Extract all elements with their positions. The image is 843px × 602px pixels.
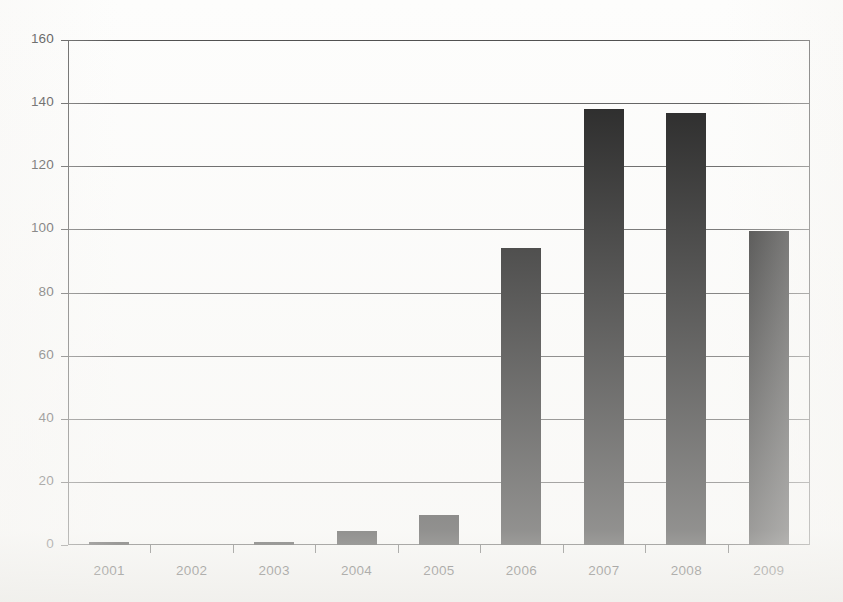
y-tick-label-120: 120 (6, 157, 54, 172)
x-tick-label-2002: 2002 (150, 563, 232, 578)
y-tick-mark-160 (61, 40, 68, 41)
y-tick-label-100: 100 (6, 220, 54, 235)
y-tick-label-160: 160 (6, 31, 54, 46)
y-tick-label-20: 20 (6, 473, 54, 488)
y-tick-mark-140 (61, 103, 68, 104)
x-tick-mark-6 (563, 545, 564, 553)
x-tick-label-2007: 2007 (563, 563, 645, 578)
y-tick-mark-40 (61, 419, 68, 420)
x-tick-label-2006: 2006 (480, 563, 562, 578)
x-tick-label-2003: 2003 (233, 563, 315, 578)
x-tick-label-2009: 2009 (728, 563, 810, 578)
y-tick-mark-20 (61, 482, 68, 483)
bar-2008 (666, 113, 706, 545)
bar-2006 (501, 248, 541, 545)
y-tick-label-60: 60 (6, 347, 54, 362)
x-tick-mark-5 (480, 545, 481, 553)
x-tick-mark-2 (233, 545, 234, 553)
y-tick-mark-120 (61, 166, 68, 167)
x-tick-mark-4 (398, 545, 399, 553)
x-tick-label-2004: 2004 (315, 563, 397, 578)
bar-2003 (254, 542, 294, 545)
chart-canvas: 020406080100120140160 200120022003200420… (0, 0, 843, 602)
y-tick-label-0: 0 (6, 536, 54, 551)
y-tick-mark-80 (61, 293, 68, 294)
y-tick-mark-60 (61, 356, 68, 357)
x-tick-mark-8 (728, 545, 729, 553)
bar-2009 (749, 231, 789, 545)
bar-2005 (419, 515, 459, 545)
x-tick-label-2001: 2001 (68, 563, 150, 578)
bar-2007 (584, 109, 624, 545)
x-tick-mark-3 (315, 545, 316, 553)
y-tick-label-80: 80 (6, 284, 54, 299)
bar-2004 (337, 531, 377, 545)
x-tick-label-2008: 2008 (645, 563, 727, 578)
y-tick-label-140: 140 (6, 94, 54, 109)
x-tick-mark-7 (645, 545, 646, 553)
bar-2001 (89, 542, 129, 545)
x-tick-mark-1 (150, 545, 151, 553)
y-tick-mark-100 (61, 229, 68, 230)
y-tick-label-40: 40 (6, 410, 54, 425)
y-tick-mark-0 (61, 545, 68, 546)
x-tick-label-2005: 2005 (398, 563, 480, 578)
